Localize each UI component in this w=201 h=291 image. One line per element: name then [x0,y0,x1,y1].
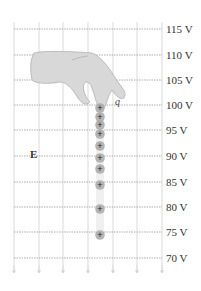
hand-icon [31,51,125,108]
voltage-label: 110 V [166,49,193,61]
voltage-label: 115 V [166,23,193,35]
voltage-label: 100 V [166,99,193,111]
bottom-ticks [13,265,164,273]
svg-text:+: + [97,164,102,174]
diagram-stage: ++++++++++ E q 115 V110 V105 V100 V95 V9… [0,0,201,291]
svg-text:+: + [97,129,102,139]
charge-label: q [115,96,120,107]
svg-text:+: + [97,204,102,214]
voltage-label: 85 V [166,176,188,188]
field-label: E [30,148,37,160]
svg-text:+: + [97,141,102,151]
voltage-label: 105 V [166,74,193,86]
voltage-label: 70 V [166,252,188,264]
svg-text:+: + [97,153,102,163]
svg-text:+: + [97,230,102,240]
voltage-label: 90 V [166,150,188,162]
voltage-label: 75 V [166,226,188,238]
field-diagram: ++++++++++ [0,0,201,291]
svg-text:+: + [97,180,102,190]
voltage-label: 95 V [166,124,188,136]
voltage-label: 80 V [166,201,188,213]
